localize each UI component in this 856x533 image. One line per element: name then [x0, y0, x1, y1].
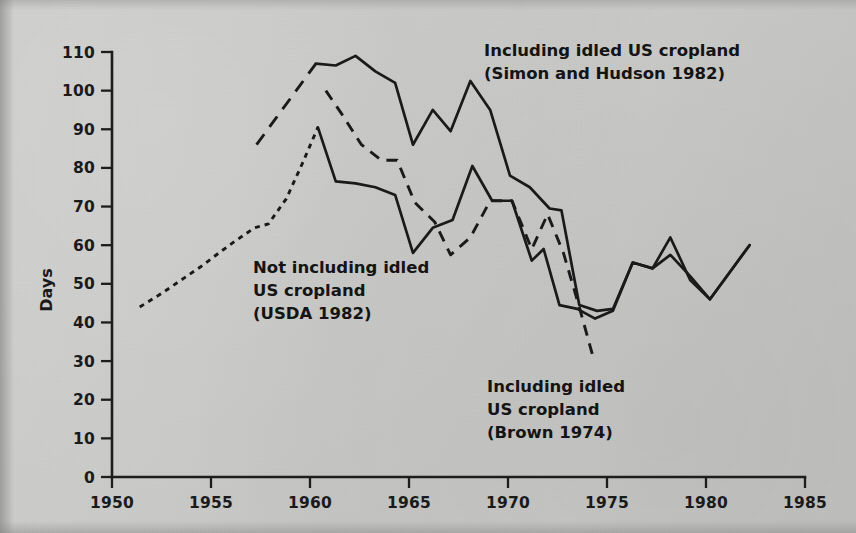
x-axis-tick-label: 1950 — [90, 494, 134, 512]
line-chart: 0102030405060708090100110 19501955196019… — [0, 0, 856, 533]
x-axis-tick-label: 1980 — [684, 494, 728, 512]
annotation-brown-line3: (Brown 1974) — [487, 423, 613, 442]
x-axis-tick-label: 1965 — [387, 494, 431, 512]
y-axis-tick-label: 100 — [62, 82, 95, 100]
y-axis-title: Days — [37, 268, 56, 312]
x-axis-tick-label: 1985 — [783, 494, 827, 512]
y-axis-tick-label: 60 — [73, 237, 95, 255]
data-series-line-2 — [257, 64, 316, 145]
y-axis-tick-label: 70 — [73, 198, 95, 216]
data-series-line-1 — [318, 127, 750, 318]
figure-canvas: 0102030405060708090100110 19501955196019… — [0, 0, 856, 533]
data-series-group — [140, 56, 750, 357]
annotation-brown-line1: Including idled — [487, 377, 625, 396]
y-axis-tick-label: 0 — [84, 469, 95, 487]
y-axis-tick-label: 10 — [73, 430, 95, 448]
annotation-simon-hudson: Including idled US cropland (Simon and H… — [484, 41, 740, 83]
y-axis-tick-label: 110 — [62, 44, 95, 62]
annotation-usda: Not including idled US cropland (USDA 19… — [253, 258, 429, 323]
x-axis-tick-label: 1970 — [486, 494, 530, 512]
annotation-simon-hudson-line1: Including idled US cropland — [484, 41, 740, 60]
y-axis-tick-labels: 0102030405060708090100110 — [62, 44, 95, 487]
annotation-simon-hudson-line2: (Simon and Hudson 1982) — [484, 64, 725, 83]
y-axis-tick-label: 20 — [73, 391, 95, 409]
annotation-usda-line1: Not including idled — [253, 258, 429, 277]
y-axis-tick-label: 80 — [73, 159, 95, 177]
annotation-brown-line2: US cropland — [487, 400, 599, 419]
x-axis-tick-labels: 19501955196019651970197519801985 — [90, 494, 827, 512]
x-axis-tick-label: 1955 — [189, 494, 233, 512]
y-axis-tick-label: 30 — [73, 353, 95, 371]
x-axis-tick-label: 1975 — [585, 494, 629, 512]
axis-group: 0102030405060708090100110 19501955196019… — [62, 44, 827, 513]
y-axis-ticks — [101, 52, 112, 477]
y-axis-tick-label: 40 — [73, 314, 95, 332]
x-axis-tick-label: 1960 — [288, 494, 332, 512]
y-axis-tick-label: 90 — [73, 121, 95, 139]
y-axis-tick-label: 50 — [73, 275, 95, 293]
annotation-usda-line3: (USDA 1982) — [253, 304, 372, 323]
annotation-brown: Including idled US cropland (Brown 1974) — [487, 377, 625, 442]
annotation-usda-line2: US cropland — [253, 281, 365, 300]
x-axis-ticks — [112, 477, 805, 488]
